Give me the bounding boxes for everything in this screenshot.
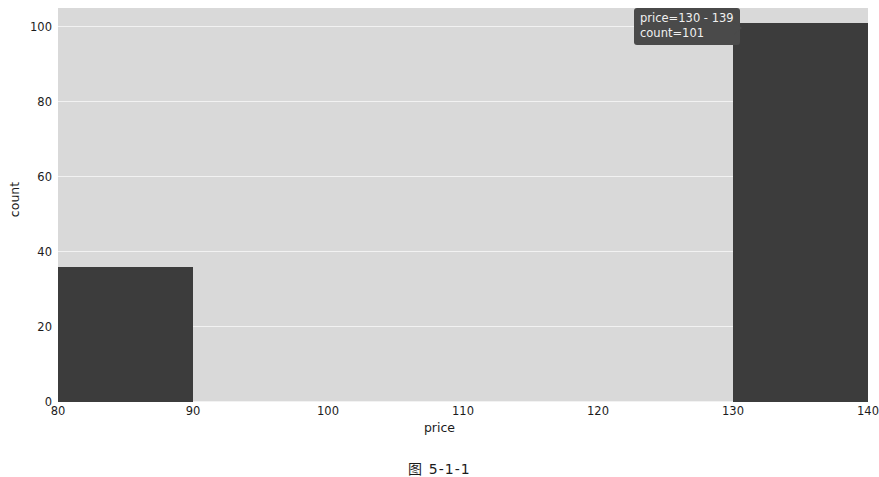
x-tick-label-120: 120	[568, 405, 628, 417]
tooltip-price-line: price=130 - 139	[640, 11, 734, 26]
bar-130-139[interactable]	[733, 23, 868, 402]
tooltip-arrow	[733, 21, 742, 35]
x-tick-label-130: 130	[703, 405, 763, 417]
bar-80-89[interactable]	[58, 267, 193, 402]
plot-area[interactable]	[58, 8, 868, 402]
y-tick-label-100: 100	[6, 21, 52, 33]
tooltip-count-line: count=101	[640, 26, 734, 41]
y-tick-label-80: 80	[6, 96, 52, 108]
x-tick-label-90: 90	[163, 405, 223, 417]
x-tick-label-140: 140	[838, 405, 879, 417]
x-tick-label-100: 100	[298, 405, 358, 417]
figure-caption: 图 5-1-1	[0, 458, 879, 477]
y-tick-label-40: 40	[6, 246, 52, 258]
histogram-figure: 020406080100 8090100110120130140 count p…	[0, 0, 879, 477]
x-tick-label-80: 80	[28, 405, 88, 417]
x-axis-title: price	[0, 420, 879, 435]
y-tick-label-20: 20	[6, 321, 52, 333]
x-tick-label-110: 110	[433, 405, 493, 417]
hover-tooltip: price=130 - 139 count=101	[634, 8, 740, 45]
y-axis-title: count	[7, 170, 22, 230]
